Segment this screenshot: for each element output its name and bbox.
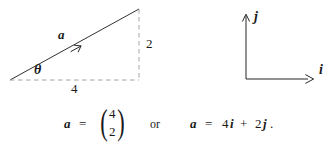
equation-lhs-symbol: a	[64, 117, 71, 130]
equation-equals-sign-2: =	[205, 117, 212, 130]
vector-a-label: a	[58, 28, 65, 41]
rhs-first-coefficient: 4	[222, 117, 229, 130]
rhs-plus-sign: +	[240, 117, 247, 130]
horizontal-component-label: 4	[71, 82, 78, 95]
angle-theta-label: θ	[34, 63, 41, 77]
figure-canvas: a θ 4 2 j i a = ( 4 2 ) or a = 4 i + 2 j…	[0, 0, 332, 147]
unit-vector-axes	[242, 14, 313, 83]
equation-rhs-symbol: a	[190, 117, 197, 130]
column-vector-close-paren: )	[117, 106, 124, 139]
j-unit-vector-label: j	[254, 10, 258, 24]
column-vector-open-paren: (	[100, 106, 107, 139]
column-vector-top-value: 4	[109, 105, 116, 123]
rhs-period: .	[270, 117, 273, 130]
i-unit-vector-label: i	[319, 63, 323, 77]
column-vector-bottom-value: 2	[109, 123, 116, 141]
equation-row: a = ( 4 2 ) or a = 4 i + 2 j .	[0, 103, 332, 147]
column-vector: ( 4 2 )	[98, 105, 127, 140]
equation-equals-sign: =	[79, 117, 86, 130]
vector-a-line	[10, 9, 139, 80]
column-vector-values: 4 2	[109, 105, 116, 140]
vertical-component-label: 2	[146, 37, 153, 50]
equation-conjunction: or	[150, 118, 160, 130]
rhs-second-coefficient: 2	[255, 117, 262, 130]
rhs-second-unit-vector: j	[263, 117, 267, 130]
rhs-first-unit-vector: i	[230, 117, 234, 130]
